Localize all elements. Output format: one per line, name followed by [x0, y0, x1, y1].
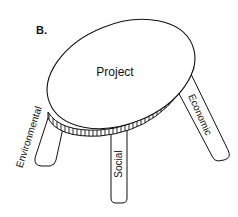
three-legged-stool-diagram: B. Project Environmental Social Economic — [0, 0, 238, 217]
panel-label: B. — [36, 24, 47, 36]
seat-label-project: Project — [96, 65, 134, 79]
leg-label-social: Social — [113, 150, 124, 177]
